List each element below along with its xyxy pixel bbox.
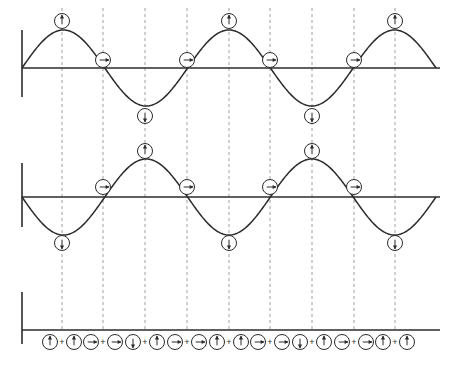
marker-up-icon — [55, 14, 70, 29]
plus-operator: + — [142, 337, 147, 347]
sum-pair-8: + — [335, 335, 374, 350]
sum-pair-9: + — [376, 335, 415, 350]
marker-down-icon — [138, 109, 153, 124]
marker-right-icon — [263, 53, 278, 68]
marker-up-icon — [222, 14, 237, 29]
marker-down-icon — [388, 236, 403, 251]
arrow-right-in-circle-icon — [108, 335, 123, 350]
axes-group — [22, 30, 440, 344]
arrow-right-in-circle-icon — [192, 335, 207, 350]
plus-operator: + — [392, 337, 397, 347]
plus-operator: + — [226, 337, 231, 347]
arrow-up-in-circle-icon — [67, 335, 82, 350]
marker-right-icon — [347, 180, 362, 195]
sum-pair-5: + — [210, 335, 249, 350]
sum-pair-2: + — [84, 335, 123, 350]
figure-canvas: +++++++++ — [0, 0, 456, 374]
marker-down-icon — [55, 236, 70, 251]
arrow-right-in-circle-icon — [359, 335, 374, 350]
sum-pair-3: + — [126, 335, 165, 350]
marker-right-icon — [347, 53, 362, 68]
marker-up-icon — [388, 14, 403, 29]
marker-right-icon — [96, 180, 111, 195]
plus-operator: + — [100, 337, 105, 347]
arrow-right-in-circle-icon — [275, 335, 290, 350]
arrow-up-in-circle-icon — [150, 335, 165, 350]
arrow-up-in-circle-icon — [210, 335, 225, 350]
sum-pair-6: + — [251, 335, 290, 350]
marker-right-icon — [263, 180, 278, 195]
arrow-down-in-circle-icon — [126, 335, 141, 350]
arrow-up-in-circle-icon — [376, 335, 391, 350]
wave-superposition-figure: +++++++++ — [0, 0, 456, 374]
plus-operator: + — [184, 337, 189, 347]
arrow-right-in-circle-icon — [84, 335, 99, 350]
arrow-up-in-circle-icon — [400, 335, 415, 350]
marker-up-icon — [138, 144, 153, 159]
waves-group — [22, 30, 436, 235]
marker-right-icon — [180, 53, 195, 68]
marker-up-icon — [305, 144, 320, 159]
arrow-up-in-circle-icon — [43, 335, 58, 350]
plus-operator: + — [59, 337, 64, 347]
arrow-up-in-circle-icon — [234, 335, 249, 350]
sum-pair-4: + — [168, 335, 207, 350]
sum-pair-7: + — [293, 335, 332, 350]
sum-pair-1: + — [43, 335, 82, 350]
plus-operator: + — [309, 337, 314, 347]
marker-down-icon — [222, 236, 237, 251]
marker-right-icon — [96, 53, 111, 68]
plus-operator: + — [267, 337, 272, 347]
arrow-right-in-circle-icon — [168, 335, 183, 350]
arrow-right-in-circle-icon — [251, 335, 266, 350]
arrow-right-in-circle-icon — [335, 335, 350, 350]
arrow-up-in-circle-icon — [317, 335, 332, 350]
marker-down-icon — [305, 109, 320, 124]
gridlines-group — [62, 8, 395, 330]
sum-row-group: +++++++++ — [43, 335, 415, 350]
marker-right-icon — [180, 180, 195, 195]
arrow-down-in-circle-icon — [293, 335, 308, 350]
plus-operator: + — [351, 337, 356, 347]
